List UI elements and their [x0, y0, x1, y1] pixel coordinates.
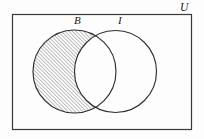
set-label-i: I [118, 15, 122, 26]
venn-diagram-canvas [0, 0, 204, 139]
venn-diagram-figure: B I U [0, 0, 204, 139]
set-label-b: B [74, 15, 81, 26]
shaded-region-b-minus-i [0, 0, 204, 139]
universal-set-label: U [180, 2, 188, 14]
